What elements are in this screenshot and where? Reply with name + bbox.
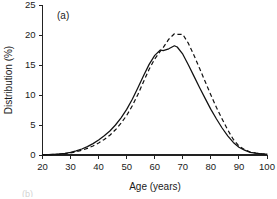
x-tick-label: 20	[37, 161, 48, 172]
data-series-layer	[43, 34, 268, 155]
x-axis-title: Age (years)	[129, 181, 181, 192]
y-tick-label: 0	[30, 149, 35, 160]
x-tick-label: 100	[259, 161, 275, 172]
y-tick-label: 15	[25, 59, 36, 70]
y-tick-label: 5	[30, 119, 35, 130]
x-axis-ticks: 2030405060708090100	[37, 155, 275, 172]
x-tick-label: 30	[65, 161, 76, 172]
x-tick-label: 40	[93, 161, 104, 172]
next-panel-label-partial: (b)	[22, 190, 38, 197]
panel-label: (a)	[57, 10, 69, 21]
figure-panel-a: 0510152025 2030405060708090100 Age (year…	[0, 0, 277, 199]
x-tick-label: 70	[178, 161, 189, 172]
series-line-dashed	[43, 34, 268, 155]
y-axis-title: Distribution (%)	[3, 46, 14, 114]
axes	[43, 5, 268, 155]
distribution-age-line-chart: 0510152025 2030405060708090100 Age (year…	[0, 0, 277, 199]
y-axis-ticks: 0510152025	[25, 0, 43, 160]
x-tick-label: 80	[206, 161, 217, 172]
x-tick-label: 90	[234, 161, 245, 172]
y-tick-label: 25	[25, 0, 36, 10]
y-tick-label: 10	[25, 89, 36, 100]
x-tick-label: 60	[149, 161, 160, 172]
y-tick-label: 20	[25, 29, 36, 40]
x-tick-label: 50	[121, 161, 132, 172]
